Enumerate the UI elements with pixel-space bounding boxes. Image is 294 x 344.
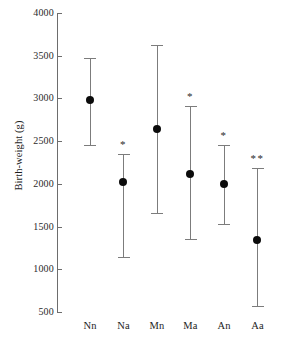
series-point-Aa: **Aa <box>238 0 278 344</box>
errorbar-cap-upper <box>151 45 163 46</box>
errorbar-cap-lower <box>118 257 130 258</box>
mean-marker <box>86 96 94 104</box>
mean-marker <box>220 180 228 188</box>
plot-area: Nn*NaMn*Ma*An**Aa <box>0 0 294 344</box>
significance-annotation: ** <box>238 154 278 163</box>
mean-marker <box>153 125 161 133</box>
mean-marker <box>186 170 194 178</box>
errorbar-cap-upper <box>218 145 230 146</box>
errorbar-cap-lower <box>218 224 230 225</box>
birth-weight-errorbar-chart: 4000350030002500200015001000500 Birth-we… <box>0 0 294 344</box>
mean-marker <box>253 236 261 244</box>
errorbar-line <box>123 154 124 257</box>
errorbar-cap-upper <box>84 58 96 59</box>
errorbar-cap-lower <box>84 145 96 146</box>
errorbar-cap-lower <box>185 239 197 240</box>
errorbar-cap-lower <box>151 213 163 214</box>
errorbar-cap-upper <box>185 106 197 107</box>
errorbar-cap-lower <box>252 306 264 307</box>
errorbar-cap-upper <box>252 168 264 169</box>
errorbar-cap-upper <box>118 154 130 155</box>
x-tick-label-Aa: Aa <box>238 320 278 331</box>
mean-marker <box>119 178 127 186</box>
